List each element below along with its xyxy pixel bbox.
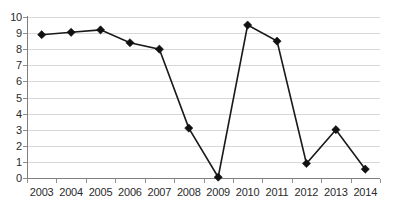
data-point-marker (38, 31, 46, 39)
data-point-marker (244, 21, 252, 29)
data-point-marker (67, 28, 75, 36)
data-point-marker (155, 45, 163, 53)
data-point-marker (214, 173, 222, 181)
series-line (42, 25, 366, 177)
data-point-marker (185, 124, 193, 132)
series-markers (38, 21, 370, 181)
data-point-marker (126, 39, 134, 47)
line-chart: 012345678910 200320042005200620072008200… (0, 0, 394, 208)
data-point-marker (273, 37, 281, 45)
data-point-marker (96, 26, 104, 34)
data-series-layer (0, 0, 394, 208)
